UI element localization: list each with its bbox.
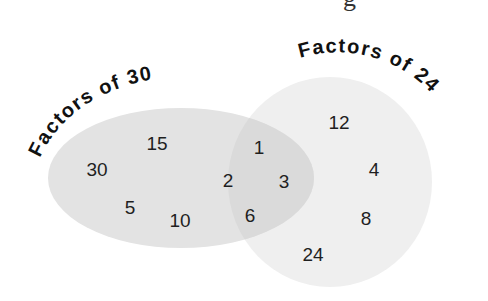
set-a-member: 15 (146, 133, 167, 154)
set-a-member: 10 (169, 210, 190, 231)
intersection-member: 3 (279, 171, 290, 192)
intersection-member: 1 (254, 137, 265, 158)
set-b-member: 8 (361, 208, 372, 229)
set-b-member: 12 (328, 112, 349, 133)
set-a-member: 30 (86, 159, 107, 180)
venn-diagram: g Factors of 30 Factors of 24 15 30 5 10… (0, 0, 488, 301)
set-b-member: 24 (302, 244, 324, 265)
cutoff-heading-fragment: g (343, 0, 356, 12)
set-a-member: 5 (125, 197, 136, 218)
intersection-member: 2 (223, 170, 234, 191)
intersection-member: 6 (245, 205, 256, 226)
set-b-member: 4 (369, 159, 380, 180)
